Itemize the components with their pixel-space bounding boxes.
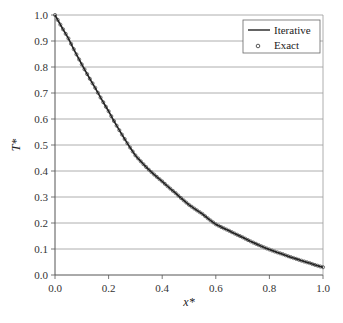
y-tick-label: 0.1	[34, 243, 48, 255]
y-tick-label: 0.8	[34, 61, 48, 73]
y-axis-title: T*	[9, 139, 23, 152]
y-tick-label: 0.7	[34, 87, 48, 99]
x-tick-label: 0.2	[102, 282, 116, 294]
chart: 0.00.10.20.30.40.50.60.70.80.91.0 0.00.2…	[0, 0, 343, 323]
x-tick-label: 0.6	[209, 282, 223, 294]
legend: Iterative Exact	[243, 20, 320, 53]
x-axis-ticks: 0.00.20.40.60.81.0	[48, 275, 330, 294]
legend-label-iterative: Iterative	[274, 24, 311, 36]
x-tick-label: 0.0	[48, 282, 62, 294]
legend-label-exact: Exact	[274, 39, 299, 51]
y-tick-label: 0.6	[34, 113, 48, 125]
y-tick-label: 0.3	[34, 191, 48, 203]
x-axis-title: x*	[182, 295, 194, 309]
x-tick-label: 0.8	[263, 282, 277, 294]
y-tick-label: 0.5	[34, 139, 48, 151]
y-tick-label: 0.2	[34, 217, 48, 229]
y-tick-label: 1.0	[34, 9, 48, 21]
x-tick-label: 0.4	[155, 282, 169, 294]
y-axis-ticks: 0.00.10.20.30.40.50.60.70.80.91.0	[34, 9, 55, 281]
y-tick-label: 0.0	[34, 269, 48, 281]
y-tick-label: 0.4	[34, 165, 48, 177]
x-tick-label: 1.0	[316, 282, 330, 294]
y-tick-label: 0.9	[34, 35, 48, 47]
